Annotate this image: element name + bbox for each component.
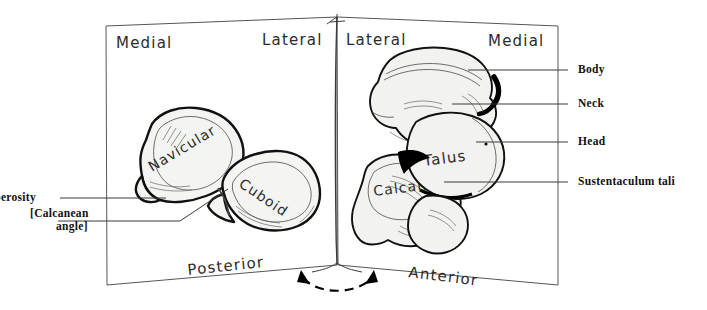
anatomical-plate: Medial Lateral Lateral Medial Navicular …	[0, 0, 707, 310]
right-label-medial: Medial	[488, 32, 544, 50]
callout-tuberosity: Tuberosity	[0, 191, 36, 204]
talus-head-foramen	[484, 142, 487, 145]
callout-neck: Neck	[578, 97, 604, 109]
callout-calcanean-angle-line2: angle]	[56, 220, 88, 233]
fold-arrowhead-right	[365, 270, 378, 284]
calcaneus-anterior-process	[408, 196, 468, 254]
callout-body: Body	[578, 63, 605, 76]
right-label-lateral: Lateral	[346, 31, 407, 49]
figure-canvas: Medial Lateral Lateral Medial Navicular …	[0, 0, 707, 310]
fold-dashed-arc	[303, 278, 372, 291]
fold-arrowhead-left	[297, 270, 310, 284]
callout-sustentaculum-tali: Sustentaculum tali	[578, 175, 676, 187]
callout-calcanean-angle-line1: [Calcanean	[30, 207, 89, 219]
callout-head: Head	[578, 135, 606, 147]
left-label-medial: Medial	[116, 34, 172, 52]
left-label-lateral: Lateral	[262, 31, 323, 49]
